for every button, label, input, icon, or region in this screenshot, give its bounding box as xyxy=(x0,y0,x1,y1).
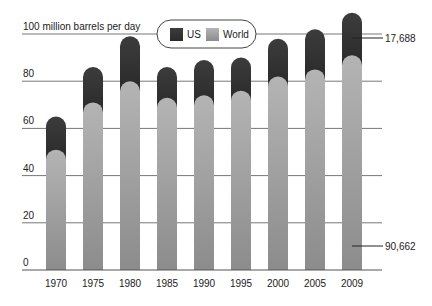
bar-segment-world xyxy=(305,69,325,270)
legend-swatch-us xyxy=(170,28,183,41)
y-tick-label: 80 xyxy=(23,68,35,79)
x-tick-label: 2000 xyxy=(267,278,290,289)
x-tick-label: 2009 xyxy=(341,278,364,289)
bar-2005: 2005 xyxy=(304,29,327,289)
y-tick-label: 60 xyxy=(23,115,35,126)
bar-segment-world xyxy=(83,102,103,270)
bars: 197019751980198519901995200020052009 xyxy=(45,13,364,289)
legend-label-world: World xyxy=(223,29,249,40)
bar-1970: 1970 xyxy=(45,117,68,289)
x-tick-label: 1975 xyxy=(82,278,105,289)
bar-1995: 1995 xyxy=(230,58,253,289)
bar-segment-world xyxy=(268,76,288,270)
bar-segment-world xyxy=(120,81,140,270)
annotation-us-2009: 17,688 xyxy=(385,33,416,44)
bar-1985: 1985 xyxy=(156,67,179,289)
legend-label-us: US xyxy=(187,29,201,40)
y-tick-label: 20 xyxy=(23,210,35,221)
unit-label: 100 million barrels per day xyxy=(23,21,140,32)
bar-segment-world xyxy=(342,55,362,270)
bar-segment-world xyxy=(231,91,251,270)
y-tick-label: 0 xyxy=(23,257,29,268)
bar-1975: 1975 xyxy=(82,67,105,289)
x-tick-label: 1985 xyxy=(156,278,179,289)
x-tick-label: 1970 xyxy=(45,278,68,289)
bar-2009: 2009 xyxy=(341,13,364,289)
x-tick-label: 1995 xyxy=(230,278,253,289)
bar-1990: 1990 xyxy=(193,60,216,289)
bar-segment-world xyxy=(194,95,214,270)
bar-segment-world xyxy=(157,98,177,270)
bar-2000: 2000 xyxy=(267,39,290,289)
bar-1980: 1980 xyxy=(119,36,142,289)
x-tick-label: 1990 xyxy=(193,278,216,289)
annotation-world-2009: 90,662 xyxy=(385,241,416,252)
x-tick-label: 2005 xyxy=(304,278,327,289)
stacked-bar-chart: 20406080100 million barrels per day0 197… xyxy=(0,0,432,306)
bar-segment-world xyxy=(46,150,66,270)
y-tick-label: 40 xyxy=(23,163,35,174)
legend-swatch-world xyxy=(206,28,219,41)
x-tick-label: 1980 xyxy=(119,278,142,289)
legend: USWorld xyxy=(157,20,256,48)
